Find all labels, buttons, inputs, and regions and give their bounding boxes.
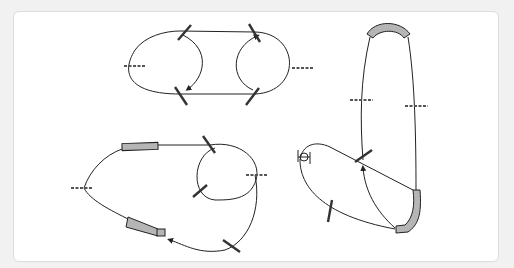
recirculating-loop: [298, 24, 428, 234]
teardrop-loop: [71, 136, 267, 252]
racetrack-ring: [124, 24, 314, 105]
diagram-canvas: [0, 0, 514, 268]
